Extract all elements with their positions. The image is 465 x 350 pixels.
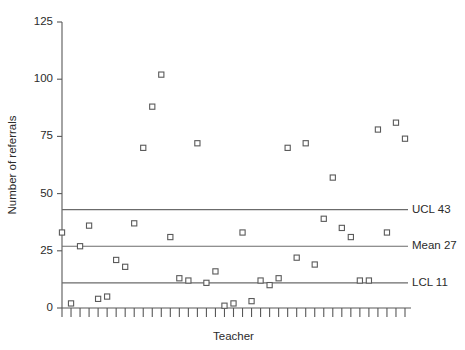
- data-point: [150, 104, 155, 109]
- x-axis-title: Teacher: [213, 330, 254, 342]
- control-line-label-mean: Mean 27: [412, 239, 457, 251]
- data-point: [114, 257, 119, 262]
- data-point: [375, 127, 380, 132]
- data-point: [249, 299, 254, 304]
- y-axis-tick-label: 25: [40, 244, 53, 256]
- data-point: [123, 264, 128, 269]
- data-point: [86, 223, 91, 228]
- data-point: [59, 230, 64, 235]
- y-axis-title: Number of referrals: [6, 115, 18, 214]
- control-chart: 0255075100125UCL 43Mean 27LCL 11TeacherN…: [0, 0, 465, 350]
- data-point: [402, 136, 407, 141]
- data-point: [348, 234, 353, 239]
- data-point: [132, 221, 137, 226]
- data-point: [105, 294, 110, 299]
- data-point: [285, 145, 290, 150]
- data-point: [339, 225, 344, 230]
- data-point: [141, 145, 146, 150]
- data-point: [231, 301, 236, 306]
- data-point: [393, 120, 398, 125]
- data-point: [330, 175, 335, 180]
- data-point: [357, 278, 362, 283]
- y-axis-tick-label: 100: [34, 72, 53, 84]
- data-point: [195, 141, 200, 146]
- data-point: [303, 141, 308, 146]
- data-point: [159, 72, 164, 77]
- data-point: [276, 276, 281, 281]
- data-point: [258, 278, 263, 283]
- data-point: [96, 296, 101, 301]
- control-line-label-lcl: LCL 11: [412, 276, 448, 288]
- data-point: [77, 244, 82, 249]
- chart-canvas: 0255075100125UCL 43Mean 27LCL 11TeacherN…: [0, 0, 465, 350]
- data-point: [321, 216, 326, 221]
- data-point: [366, 278, 371, 283]
- data-point: [267, 283, 272, 288]
- data-point: [177, 276, 182, 281]
- data-point: [240, 230, 245, 235]
- y-axis-tick-label: 50: [40, 187, 53, 199]
- data-point: [213, 269, 218, 274]
- data-point: [204, 280, 209, 285]
- data-point: [312, 262, 317, 267]
- y-axis-tick-label: 0: [47, 301, 53, 313]
- data-point: [222, 303, 227, 308]
- data-point: [186, 278, 191, 283]
- control-line-label-ucl: UCL 43: [412, 203, 451, 215]
- data-point: [294, 255, 299, 260]
- y-axis-tick-label: 75: [40, 129, 53, 141]
- data-point: [384, 230, 389, 235]
- y-axis-tick-label: 125: [34, 15, 53, 27]
- data-point: [68, 301, 73, 306]
- data-point: [168, 234, 173, 239]
